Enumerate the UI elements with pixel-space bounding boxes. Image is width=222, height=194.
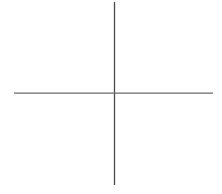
diagram-canvas [0, 0, 222, 194]
axis-cross-figure [0, 0, 222, 194]
figure-background [0, 0, 222, 194]
